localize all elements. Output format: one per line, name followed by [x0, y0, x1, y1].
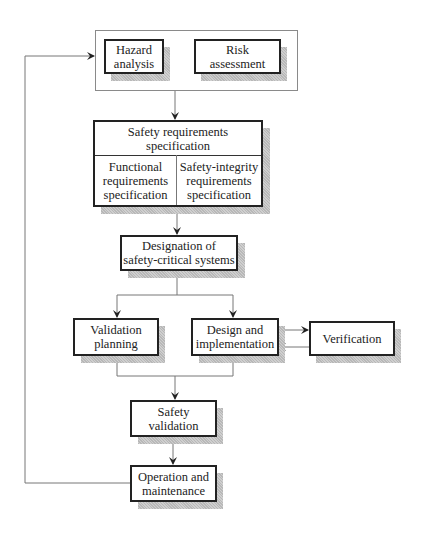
designation-box[interactable]: Designation of safety-critical systems — [120, 235, 238, 271]
safety-req-label-1: Safety requirements — [128, 125, 228, 139]
verification-label: Verification — [322, 332, 381, 346]
integrity-label-3: specification — [180, 188, 258, 202]
designation-label-2: safety-critical systems — [123, 253, 234, 267]
validation-planning-label-2: planning — [94, 337, 138, 351]
operation-label-1: Operation and — [138, 470, 209, 484]
safety-validation-box[interactable]: Safety validation — [130, 400, 217, 437]
operation-maintenance-box[interactable]: Operation and maintenance — [130, 465, 217, 502]
integrity-label-1: Safety-integrity — [180, 160, 258, 174]
design-implementation-box[interactable]: Design and implementation — [191, 318, 279, 356]
hazard-analysis-box[interactable]: Hazard analysis — [104, 39, 164, 74]
hazard-label-2: analysis — [114, 57, 154, 71]
safety-validation-label-2: validation — [149, 419, 199, 433]
safety-integrity-cell[interactable]: Safety-integrity requirements specificat… — [177, 156, 261, 205]
design-label-1: Design and — [207, 323, 264, 337]
design-label-2: implementation — [196, 337, 274, 351]
integrity-label-2: requirements — [180, 174, 258, 188]
designation-label-1: Designation of — [142, 239, 216, 253]
validation-planning-box[interactable]: Validation planning — [73, 318, 159, 356]
functional-requirements-cell[interactable]: Functional requirements specification — [95, 156, 176, 205]
risk-assessment-box[interactable]: Risk assessment — [194, 39, 281, 74]
operation-label-2: maintenance — [142, 484, 205, 498]
hazard-label-1: Hazard — [116, 43, 152, 57]
validation-planning-label-1: Validation — [90, 323, 141, 337]
functional-label-2: requirements — [103, 174, 168, 188]
verification-box[interactable]: Verification — [309, 321, 395, 356]
safety-validation-label-1: Safety — [158, 405, 190, 419]
safety-req-label-2: specification — [128, 139, 228, 153]
risk-label-1: Risk — [226, 43, 249, 57]
functional-label-1: Functional — [103, 160, 168, 174]
risk-label-2: assessment — [210, 57, 266, 71]
functional-label-3: specification — [103, 188, 168, 202]
